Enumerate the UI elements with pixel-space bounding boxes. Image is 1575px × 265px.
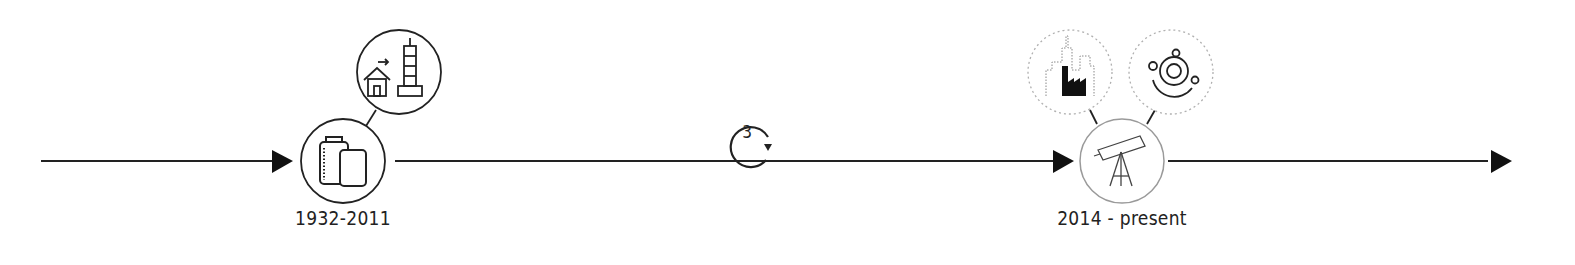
arrow-head-icon [1053, 150, 1074, 173]
related-node-house-to-skyscraper[interactable] [357, 30, 441, 114]
arrow-head-icon [1491, 150, 1512, 173]
milestone-2-node[interactable] [1080, 119, 1164, 203]
timeline-diagram [0, 0, 1575, 265]
arrow-head-icon [272, 150, 293, 173]
milestone-2-label: 2014 - present [1057, 207, 1187, 229]
connector [366, 110, 376, 126]
related-node-city-factory[interactable] [1028, 30, 1112, 114]
cycle-count: 3 [742, 122, 752, 142]
connector [1090, 110, 1097, 124]
connector [1147, 110, 1155, 124]
related-node-orbit[interactable] [1129, 30, 1213, 114]
milestone-1-node[interactable] [301, 119, 385, 203]
milestone-1-label: 1932-2011 [295, 207, 391, 229]
